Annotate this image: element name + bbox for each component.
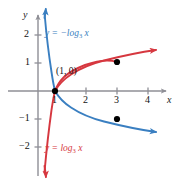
red-eq-suffix: x xyxy=(76,143,83,153)
x-tick-3: 3 xyxy=(114,95,119,105)
x-axis-label: x xyxy=(167,95,171,105)
red-eq-prefix: y = log xyxy=(45,143,73,153)
blue-point-3-neg1 xyxy=(114,116,120,122)
logarithm-graph-figure: y x 2 1 −1 −2 1 2 3 4 y = −log3 x y = lo… xyxy=(0,0,181,184)
x-tick-1: 1 xyxy=(52,95,57,105)
y-tick-neg2: −2 xyxy=(19,141,30,151)
x-tick-2: 2 xyxy=(83,95,88,105)
blue-curve-equation-label: y = −log3 x xyxy=(45,29,89,39)
blue-eq-suffix: x xyxy=(82,28,89,38)
y-axis-label: y xyxy=(23,10,27,20)
red-curve-lower-tail xyxy=(45,166,46,177)
y-tick-1: 1 xyxy=(25,57,30,67)
y-axis xyxy=(35,15,42,176)
y-tick-neg1: −1 xyxy=(19,113,30,123)
y-tick-2: 2 xyxy=(24,29,29,39)
red-curve-equation-label: y = log3 x xyxy=(45,144,82,154)
red-point-3-1 xyxy=(114,59,120,65)
x-tick-4: 4 xyxy=(145,95,150,105)
red-curve-log3x xyxy=(45,60,118,172)
intersection-point-label: (1, 0) xyxy=(56,67,77,77)
blue-eq-prefix: y = −log xyxy=(45,28,79,38)
